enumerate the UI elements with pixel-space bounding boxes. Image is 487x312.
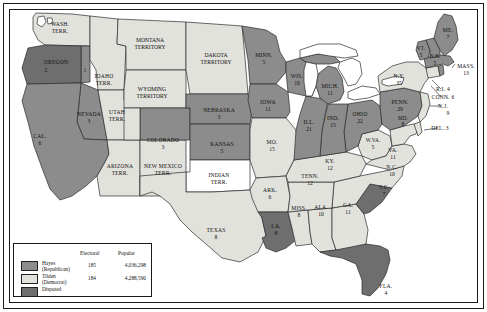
label-iowa: IOWA [260,99,275,105]
label-pennsylvania: PENN. [391,99,408,105]
label-wisconsin: WIS. [291,73,304,79]
label-california: CAL. [33,133,47,139]
state-oregon-hayes [81,46,90,83]
label-illinois-votes: 21 [306,126,312,132]
legend-col-popular: Popular [118,250,135,256]
state-colorado [140,108,190,140]
label-arkansas-votes: 6 [269,194,272,200]
label-georgia: GA. [343,202,353,208]
label-wash-terr-2: TERR. [52,28,69,34]
label-kentucky: KY. [325,158,335,164]
label-kentucky-votes: 12 [327,165,333,171]
terr-utah-east-sliver [124,108,140,140]
legend-row-disputed: Disputed [21,287,61,297]
label-indiana-votes: 15 [330,122,336,128]
label-vermont: VT. [417,45,425,51]
legend-party-tilden: (Democrat) [42,280,66,286]
legend-row-tilden: Tilden (Democrat) [21,274,66,285]
label-west-virginia: W.VA. [366,137,381,143]
legend-swatch-tilden [21,274,38,284]
legend-name-disputed: Disputed [42,287,61,293]
label-delaware: DEL. 3 [431,125,449,131]
label-montana-terr: MONTANA [136,37,164,43]
legend-electoral-hayes: 185 [74,262,96,268]
label-alabama-votes: 10 [318,211,324,217]
label-utah-terr-2: TERR. [109,116,126,122]
legend-swatch-hayes [21,261,38,271]
label-illinois: ILL. [304,119,315,125]
label-indian-terr-2: TERR. [211,179,228,185]
label-nebraska-votes: 3 [218,114,221,120]
label-iowa-votes: 11 [265,106,271,112]
label-indiana: IND. [327,115,340,121]
label-florida: FLA. [380,283,393,289]
label-new-mexico-terr: NEW MEXICO [144,163,182,169]
label-new-mexico-terr-2: TERR. [155,170,172,176]
label-ohio: OHIO [353,111,368,117]
label-south-carolina-votes: 7 [383,191,386,197]
label-california-votes: 6 [39,140,42,146]
label-maine-votes: 7 [447,34,450,40]
label-tennessee: TENN. [301,173,319,179]
election-map-page: WASH. TERR. OREGON 2 1 IDAHO TERR. MONTA… [0,0,487,312]
lake-erie [348,86,380,100]
label-virginia: VA. [388,147,398,153]
label-mississippi: MISS. [291,205,307,211]
label-idaho-terr: IDAHO [94,73,113,79]
legend-popular-tilden: 4,288,590 [104,275,146,281]
label-nevada: NEVADA [77,111,101,117]
lake-michigan [304,62,318,96]
label-arkansas: ARK. [263,187,277,193]
legend-row-hayes: Hayes (Republican) [21,261,70,272]
label-arizona-terr-2: TERR. [112,170,129,176]
legend-label-tilden: Tilden (Democrat) [42,274,66,285]
label-massachusetts: MASS. [457,63,475,69]
label-rhode-island: R.I. 4 [436,86,450,92]
legend-electoral-tilden: 184 [74,275,96,281]
label-missouri: MO. [266,139,277,145]
label-michigan-votes: 11 [327,90,333,96]
terr-dakota [186,22,248,94]
label-pennsylvania-votes: 29 [397,106,403,112]
legend-label-disputed: Disputed [42,287,61,293]
label-dakota-terr: DAKOTA [204,52,227,58]
label-ohio-votes: 22 [357,118,363,124]
label-minnesota: MINN. [255,52,273,58]
label-south-carolina: S.C. [379,184,389,190]
label-new-york-votes: 35 [396,80,402,86]
label-mississippi-votes: 8 [298,212,301,218]
leader-massachusetts [452,64,455,68]
label-massachusetts-votes: 13 [463,70,469,76]
label-virginia-votes: 11 [390,154,396,160]
label-utah-terr: UTAH [109,109,125,115]
label-new-hampshire: N.H. [430,53,441,59]
label-north-carolina-votes: 10 [389,171,395,177]
label-louisiana: LA. [271,223,281,229]
label-texas: TEXAS [206,227,225,233]
label-nebraska: NEBRASKA [203,107,235,113]
label-new-jersey-votes: 9 [447,110,450,116]
label-idaho-terr-2: TERR. [96,80,113,86]
label-new-hampshire-votes: 5 [434,60,437,66]
label-texas-votes: 8 [215,234,218,240]
label-louisiana-votes: 8 [275,230,278,236]
label-florida-votes: 4 [385,290,388,296]
lake-superior [300,44,358,58]
legend-popular-hayes: 4,036,298 [104,262,146,268]
label-georgia-votes: 11 [345,209,351,215]
map-legend: Electoral Popular Hayes (Republican) 185… [13,243,152,297]
label-wyoming-terr-2: TERRITORY [137,93,168,99]
label-colorado: COLORADO [147,137,180,143]
label-maryland-votes: 8 [402,121,405,127]
label-dakota-terr-2: TERRITORY [201,59,232,65]
label-montana-terr-2: TERRITORY [135,44,166,50]
label-wisconsin-votes: 10 [294,80,300,86]
legend-label-hayes: Hayes (Republican) [42,261,70,272]
label-connecticut: CONN. 6 [432,94,455,100]
label-vermont-votes: 5 [420,52,423,58]
legend-party-hayes: (Republican) [42,267,70,273]
label-wyoming-terr: WYOMING [138,86,166,92]
legend-col-electoral: Electoral [80,250,99,256]
label-kansas-votes: 5 [221,148,224,154]
legend-swatch-disputed [21,287,38,297]
